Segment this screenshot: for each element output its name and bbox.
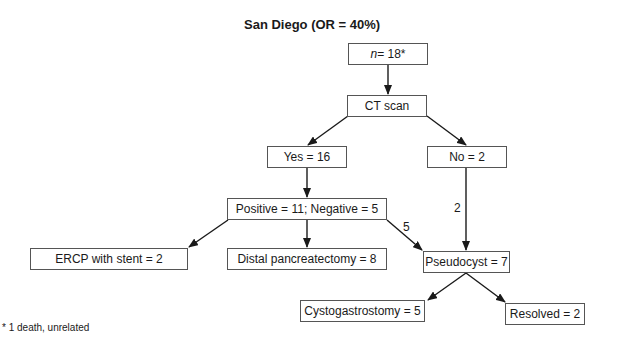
node-no: No = 2	[427, 146, 507, 168]
node-pseudocyst: Pseudocyst = 7	[423, 251, 510, 273]
node-ercp: ERCP with stent = 2	[30, 248, 188, 270]
node-cystogastrostomy: Cystogastrostomy = 5	[300, 300, 425, 322]
n-symbol: n	[370, 47, 377, 61]
connector-lines	[0, 0, 618, 346]
footnote: * 1 death, unrelated	[2, 322, 89, 333]
node-resolved: Resolved = 2	[505, 303, 585, 325]
node-yes: Yes = 16	[267, 146, 347, 168]
node-positive-negative: Positive = 11; Negative = 5	[227, 198, 387, 220]
n-value: = 18*	[377, 47, 405, 61]
edge-label-negative-to-pseudocyst: 5	[403, 220, 410, 234]
node-distal-pancreatectomy: Distal pancreatectomy = 8	[227, 248, 387, 270]
node-n-total: n = 18*	[348, 43, 428, 65]
edge-label-no-to-pseudocyst: 2	[454, 201, 461, 215]
node-ct-scan: CT scan	[347, 95, 427, 117]
